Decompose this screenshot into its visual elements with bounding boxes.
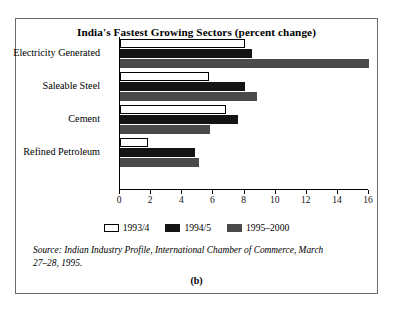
legend-swatch-icon: [165, 224, 180, 232]
bar-2: [120, 59, 369, 68]
bar-0: [120, 72, 209, 81]
x-tick-label: 14: [332, 195, 342, 205]
bar-2: [120, 158, 199, 167]
x-tick-mark: [368, 190, 369, 194]
x-tick-label: 12: [301, 195, 311, 205]
x-tick-mark: [181, 190, 182, 194]
figure-panel: India's Fastest Growing Sectors (percent…: [15, 18, 378, 294]
legend-item[interactable]: 1994/5: [165, 222, 211, 233]
panel-caption: (b): [16, 275, 377, 286]
legend-label: 1994/5: [184, 222, 211, 233]
x-tick-label: 6: [210, 195, 215, 205]
x-tick-mark: [119, 190, 120, 194]
x-tick-mark: [244, 190, 245, 194]
legend-item[interactable]: 1993/4: [104, 222, 150, 233]
x-tick-mark: [212, 190, 213, 194]
x-tick-mark: [337, 190, 338, 194]
category-label: Cement: [68, 113, 100, 124]
x-tick-label: 0: [117, 195, 122, 205]
x-tick-label: 4: [179, 195, 184, 205]
bar-2: [120, 92, 257, 101]
bar-1: [120, 115, 238, 124]
chart-legend: 1993/41994/51995–2000: [16, 222, 377, 233]
legend-label: 1995–2000: [246, 222, 289, 233]
bar-1: [120, 82, 245, 91]
x-tick-mark: [275, 190, 276, 194]
plot-area: 0246810121416 Electricity GeneratedSalea…: [103, 37, 369, 207]
x-tick-label: 8: [241, 195, 246, 205]
legend-swatch-icon: [104, 224, 119, 232]
category-label: Saleable Steel: [43, 80, 100, 91]
bar-0: [120, 39, 245, 48]
x-tick-mark: [306, 190, 307, 194]
bar-1: [120, 49, 252, 58]
x-tick-label: 2: [148, 195, 153, 205]
legend-item[interactable]: 1995–2000: [227, 222, 289, 233]
legend-label: 1993/4: [123, 222, 150, 233]
bar-0: [120, 105, 226, 114]
x-tick-mark: [150, 190, 151, 194]
bar-1: [120, 148, 195, 157]
category-label: Electricity Generated: [13, 47, 100, 58]
bar-0: [120, 138, 148, 147]
x-tick-label: 10: [270, 195, 280, 205]
legend-swatch-icon: [227, 224, 242, 232]
source-note: Source: Indian Industry Profile, Interna…: [33, 244, 333, 269]
x-tick-label: 16: [363, 195, 373, 205]
category-label: Refined Petroleum: [23, 146, 100, 157]
bar-2: [120, 125, 210, 134]
